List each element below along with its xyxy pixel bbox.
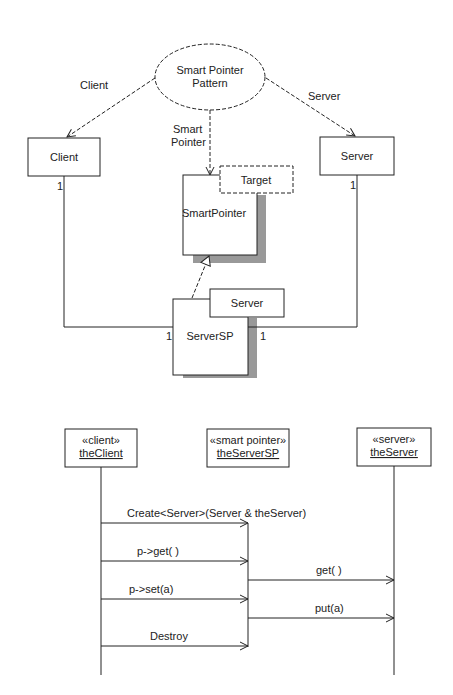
serversp-left-multiplicity: 1 xyxy=(166,330,172,342)
lifeline-name: theServerSP xyxy=(217,447,279,459)
lifeline-stereotype: «server» xyxy=(373,433,416,445)
client-class-name: Client xyxy=(50,151,78,163)
server-role-label: Server xyxy=(308,90,341,102)
message-label: Destroy xyxy=(150,630,188,642)
smart-pointer-diagram: Smart Pointer Pattern Client Server Smar… xyxy=(0,0,453,695)
client-multiplicity: 1 xyxy=(57,180,63,192)
message-get: get( ) xyxy=(248,564,394,580)
serversp-class-name: ServerSP xyxy=(186,330,233,342)
message-destroy: Destroy xyxy=(101,630,248,646)
server-class: Server xyxy=(320,137,394,175)
message-label: Create<Server>(Server & theServer) xyxy=(127,507,306,519)
smartpointer-role-label-1: Smart xyxy=(173,123,202,135)
smartpointer-role-label-2: Pointer xyxy=(171,136,206,148)
message-label: get( ) xyxy=(316,564,342,576)
client-role-label: Client xyxy=(80,79,108,91)
message-p-get: p->get( ) xyxy=(101,545,248,561)
message-create: Create<Server>(Server & theServer) xyxy=(101,507,306,523)
template-parameter-target: Target xyxy=(241,174,272,186)
server-class-name: Server xyxy=(341,150,374,162)
message-put: put(a) xyxy=(248,602,394,618)
client-serversp-association xyxy=(64,176,173,327)
message-label: p->set(a) xyxy=(129,583,173,595)
serversp-right-multiplicity: 1 xyxy=(260,330,266,342)
message-p-set: p->set(a) xyxy=(101,583,248,599)
lifeline-name: theClient xyxy=(79,447,122,459)
smartpointer-class-name: SmartPointer xyxy=(182,207,247,219)
lifeline-theserversp: «smart pointer» theServerSP xyxy=(207,429,289,647)
serversp-class: ServerSP Server xyxy=(173,289,284,378)
server-multiplicity: 1 xyxy=(350,179,356,191)
client-class: Client xyxy=(28,138,100,176)
server-role-dependency xyxy=(266,78,355,136)
lifeline-name: theServer xyxy=(370,446,418,458)
bound-parameter-server: Server xyxy=(231,297,264,309)
lifeline-stereotype: «smart pointer» xyxy=(210,434,286,446)
pattern-name-line2: Pattern xyxy=(192,77,227,89)
pattern-collaboration: Smart Pointer Pattern xyxy=(155,44,265,110)
message-label: p->get( ) xyxy=(137,545,179,557)
pattern-name-line1: Smart Pointer xyxy=(176,64,244,76)
lifeline-stereotype: «client» xyxy=(82,434,120,446)
lifeline-theserver: «server» theServer xyxy=(357,428,431,675)
lifeline-theclient: «client» theClient xyxy=(65,429,137,675)
smartpointer-class: SmartPointer Target xyxy=(182,166,293,263)
message-label: put(a) xyxy=(315,602,344,614)
